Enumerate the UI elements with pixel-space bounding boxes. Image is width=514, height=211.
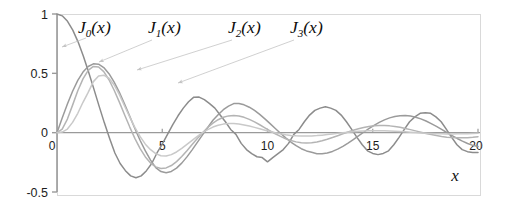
x-tick-label: 10 (261, 139, 275, 153)
chart-svg: 10.50-0.505101520xJ0(x)J1(x)J2(x)J3(x) (0, 0, 514, 211)
leader-line-j1x (99, 40, 152, 62)
label-argument: (x) (91, 17, 111, 37)
series-label-text: J2(x) (228, 17, 261, 39)
series-label-text: J0(x) (78, 17, 111, 39)
y-tick-label: 0.5 (31, 67, 48, 81)
series-label-text: J3(x) (290, 17, 323, 39)
curve-j1x (57, 64, 478, 173)
y-tick-label: -0.5 (26, 186, 48, 200)
leader-line-j2x (137, 40, 232, 70)
series-label-j2x: J2(x) (228, 17, 261, 39)
series-label-j3x: J3(x) (290, 17, 323, 39)
label-argument: (x) (241, 17, 261, 37)
series-label-j1x: J1(x) (148, 17, 181, 39)
x-axis-name: x (450, 166, 459, 185)
bessel-function-chart: 10.50-0.505101520xJ0(x)J1(x)J2(x)J3(x) (0, 0, 514, 211)
y-tick-label: 0 (41, 126, 48, 140)
x-tick-label: 0 (49, 139, 56, 153)
label-argument: (x) (303, 17, 323, 37)
leader-line-j0x (62, 38, 86, 47)
series-label-j0x: J0(x) (78, 17, 111, 39)
leader-line-j3x (178, 40, 294, 83)
series-label-text: J1(x) (148, 17, 181, 39)
label-argument: (x) (161, 17, 181, 37)
y-tick-label: 1 (41, 8, 48, 22)
